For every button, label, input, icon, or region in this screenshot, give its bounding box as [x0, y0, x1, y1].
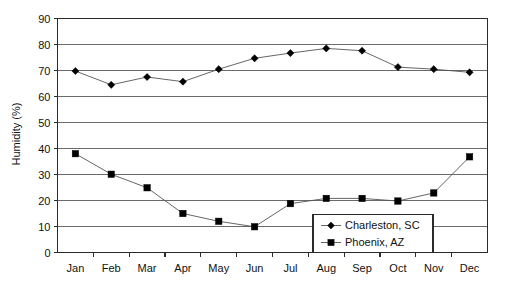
- y-tick-label: 20: [38, 195, 50, 207]
- x-tick-label-apr: Apr: [174, 262, 191, 274]
- x-tick-label-oct: Oct: [389, 262, 406, 274]
- x-tick-label-aug: Aug: [316, 262, 336, 274]
- humidity-line-chart: 0102030405060708090 JanFebMarAprMayJunJu…: [0, 0, 510, 282]
- y-tick-label: 60: [38, 91, 50, 103]
- square-marker-icon: [328, 239, 334, 245]
- data-point-square: [108, 171, 114, 177]
- data-point-square: [216, 218, 222, 224]
- y-tick-label: 80: [38, 39, 50, 51]
- legend-label: Phoenix, AZ: [345, 236, 405, 248]
- data-point-square: [395, 198, 401, 204]
- data-point-square: [144, 185, 150, 191]
- data-point-square: [287, 200, 293, 206]
- x-tick-label-jul: Jul: [283, 262, 297, 274]
- y-axis-title: Humidity (%): [10, 103, 22, 166]
- chart-legend: Charleston, SCPhoenix, AZ: [313, 215, 433, 253]
- data-point-square: [431, 190, 437, 196]
- legend-label: Charleston, SC: [345, 219, 420, 231]
- chart-canvas: 0102030405060708090 JanFebMarAprMayJunJu…: [0, 0, 510, 282]
- data-point-square: [251, 224, 257, 230]
- x-tick-label-nov: Nov: [424, 262, 444, 274]
- data-point-square: [323, 195, 329, 201]
- x-tick-label-sep: Sep: [352, 262, 372, 274]
- x-tick-label-may: May: [208, 262, 229, 274]
- y-tick-label: 40: [38, 143, 50, 155]
- x-tick-label-jan: Jan: [67, 262, 85, 274]
- y-tick-label: 50: [38, 117, 50, 129]
- y-tick-label: 10: [38, 221, 50, 233]
- data-point-square: [466, 154, 472, 160]
- y-tick-label: 90: [38, 13, 50, 25]
- y-tick-label: 0: [44, 247, 50, 259]
- y-tick-label: 30: [38, 169, 50, 181]
- x-tick-label-jun: Jun: [246, 262, 264, 274]
- x-tick-label-feb: Feb: [102, 262, 121, 274]
- x-tick-label-dec: Dec: [460, 262, 480, 274]
- data-point-square: [72, 151, 78, 157]
- y-tick-label: 70: [38, 65, 50, 77]
- data-point-square: [180, 210, 186, 216]
- data-point-square: [359, 195, 365, 201]
- x-tick-label-mar: Mar: [138, 262, 157, 274]
